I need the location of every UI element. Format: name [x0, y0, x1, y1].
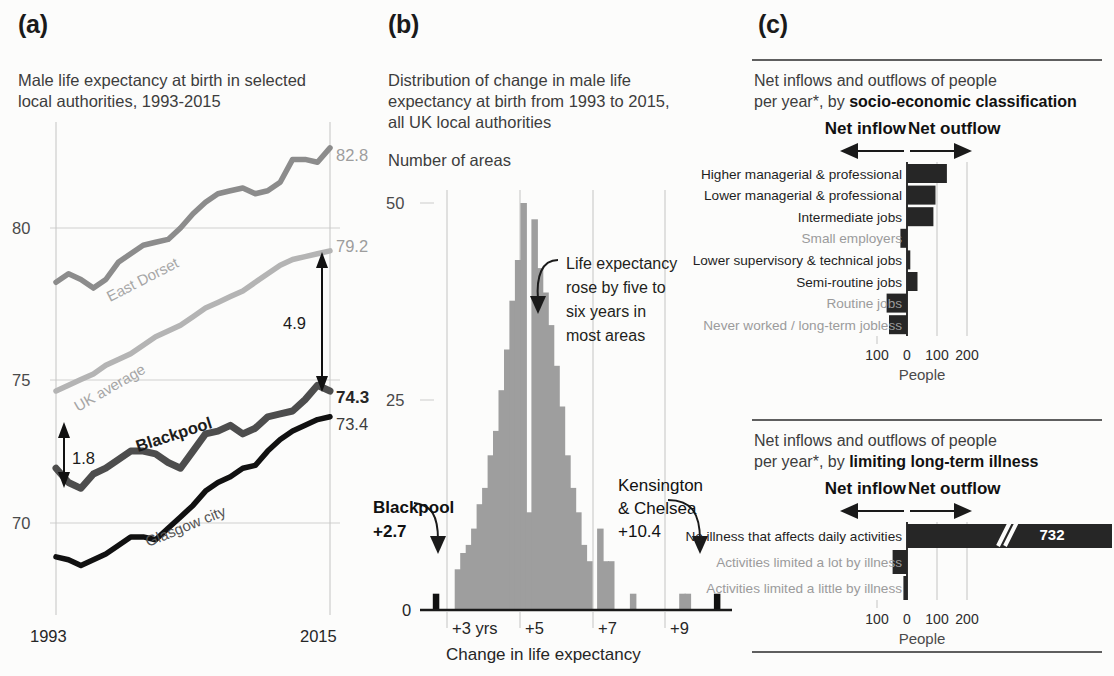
- panel-c-top-title-bold: socio-economic classification: [849, 93, 1077, 110]
- panel-b-ytick-0: 0: [402, 601, 411, 619]
- category-label: Semi-routine jobs: [796, 275, 902, 290]
- category-label: Lower managerial & professional: [704, 188, 902, 203]
- category-label: Activities limited a lot by illness: [716, 555, 902, 570]
- panel-b-xtick-2: +7: [598, 619, 617, 637]
- bar-outflow: [907, 250, 910, 269]
- panel-b-y-axis-title: Number of areas: [388, 151, 511, 169]
- endlabel-glasgow: 73.4: [336, 415, 368, 433]
- panel-c-tag: (c): [758, 10, 788, 39]
- panel-c-top-xtick-0: 100: [865, 347, 889, 363]
- panel-c-top-xtick-1: 0: [903, 347, 911, 363]
- panel-c-top-title: Net inflows and outflows of people per y…: [754, 70, 1104, 112]
- bar-inflow: [903, 576, 907, 600]
- panel-b: (b) Distribution of change in male life …: [380, 0, 740, 676]
- endlabel-uk-average: 79.2: [336, 237, 368, 255]
- line-east-dorset: [56, 148, 330, 288]
- panel-c-bottom-title: Net inflows and outflows of people per y…: [754, 430, 1104, 472]
- category-label: Routine jobs: [826, 296, 902, 311]
- panel-b-ytick-50: 50: [386, 194, 404, 212]
- histogram-bar: [586, 561, 593, 610]
- panel-a-tag: (a): [18, 10, 48, 39]
- panel-b-xtick-0: +3 yrs: [452, 619, 497, 637]
- panel-a-ytick-1: 75: [12, 371, 30, 389]
- panel-a-chart: 80 75 70 1993 2015 East Dorset UK averag…: [0, 112, 380, 672]
- panel-b-xtick-3: +9: [670, 619, 689, 637]
- broken-bar-value: 732: [1039, 526, 1064, 543]
- bar-outflow: [907, 164, 947, 183]
- panel-c-top-x-axis-title: People: [899, 366, 946, 383]
- kensington-callout-name: Kensington & Chelsea: [618, 474, 703, 520]
- panel-c-top-xtick-3: 200: [955, 347, 979, 363]
- histogram-bar: [608, 561, 615, 610]
- panel-c-top-chart: Net inflow Net outflow Higher managerial…: [752, 118, 1114, 398]
- panel-c-top-inflow-label: Net inflow: [825, 119, 907, 138]
- bar-outflow: [907, 186, 936, 205]
- panel-c-bottom-inflow-arrow: [840, 503, 904, 519]
- category-label: Higher managerial & professional: [701, 167, 902, 182]
- panel-b-x-axis-title: Change in life expectancy: [446, 645, 641, 664]
- figure-root: (a) Male life expectancy at birth in sel…: [0, 0, 1114, 676]
- panel-c-bottom-xtick-0: 100: [865, 611, 889, 627]
- panel-a-series-group: [56, 148, 330, 566]
- panel-c-divider-top: [752, 58, 1114, 64]
- endlabel-blackpool: 74.3: [336, 388, 369, 407]
- histogram-bar: [630, 594, 637, 610]
- category-label: Never worked / long-term jobless: [703, 318, 902, 333]
- panel-c-bottom-category-labels: No illness that affects daily activities…: [685, 529, 902, 596]
- category-label: Intermediate jobs: [798, 210, 902, 225]
- panel-c-divider-bottom: [752, 650, 1114, 656]
- panel-c-top-xtick-2: 100: [925, 347, 949, 363]
- panel-a-ytick-0: 80: [12, 219, 30, 237]
- histogram-bar-highlighted: [433, 594, 440, 610]
- category-label: Activities limited a little by illness: [706, 581, 902, 596]
- bar-outflow: [907, 272, 918, 291]
- panel-c-top-outflow-label: Net outflow: [908, 119, 1001, 138]
- panel-c-bottom-xtick-3: 200: [955, 611, 979, 627]
- panel-b-tag: (b): [388, 10, 419, 39]
- panel-c-top-outflow-arrow: [910, 143, 972, 159]
- panel-c: (c) Net inflows and outflows of people p…: [740, 0, 1114, 676]
- gap-arrow-top: [316, 252, 328, 392]
- histogram-bar-highlighted: [714, 594, 721, 610]
- panel-a: (a) Male life expectancy at birth in sel…: [0, 0, 380, 676]
- panel-c-bottom-outflow-arrow: [910, 503, 972, 519]
- panel-c-bottom-title-bold: limiting long-term illness: [849, 453, 1038, 470]
- panel-a-xtick-1: 2015: [300, 627, 337, 645]
- panel-a-subtitle: Male life expectancy at birth in selecte…: [18, 70, 358, 112]
- panel-a-xtick-0: 1993: [30, 627, 67, 645]
- panel-b-chart: Number of areas 50 25 0 +3 yrs +5 +7: [380, 148, 740, 668]
- category-label: Lower supervisory & technical jobs: [693, 253, 902, 268]
- panel-a-ytick-2: 70: [12, 514, 30, 532]
- panel-c-bottom-xtick-2: 100: [925, 611, 949, 627]
- panel-c-divider-mid: [752, 418, 1114, 424]
- panel-c-bottom-inflow-label: Net inflow: [825, 479, 907, 498]
- panel-c-bottom-xtick-1: 0: [903, 611, 911, 627]
- histogram-bar: [685, 594, 692, 610]
- panel-b-ytick-25: 25: [386, 391, 404, 409]
- series-label-east-dorset: East Dorset: [104, 254, 182, 305]
- gap-label-top: 4.9: [283, 314, 306, 332]
- category-label: No illness that affects daily activities: [685, 529, 902, 544]
- bar-outflow: [907, 207, 933, 226]
- panel-b-xtick-1: +5: [525, 619, 544, 637]
- gap-label-bottom: 1.8: [72, 449, 95, 467]
- blackpool-callout-value: +2.7: [373, 522, 407, 542]
- blackpool-arrowhead: [430, 536, 446, 554]
- panel-c-top-inflow-arrow: [840, 143, 904, 159]
- panel-c-bottom-x-axis-title: People: [899, 630, 946, 647]
- series-label-uk-average: UK average: [71, 360, 148, 414]
- line-glasgow: [56, 417, 330, 566]
- panel-c-bottom-outflow-label: Net outflow: [908, 479, 1001, 498]
- panel-b-subtitle: Distribution of change in male life expe…: [388, 70, 728, 133]
- panel-c-bottom-chart: Net inflow Net outflow No illness that a…: [752, 478, 1114, 668]
- kensington-callout-value: +10.4: [618, 522, 661, 542]
- blackpool-callout-name: Blackpool: [373, 498, 454, 518]
- endlabel-east-dorset: 82.8: [336, 146, 368, 164]
- category-label: Small employers: [802, 231, 903, 246]
- series-label-blackpool: Blackpool: [133, 413, 214, 454]
